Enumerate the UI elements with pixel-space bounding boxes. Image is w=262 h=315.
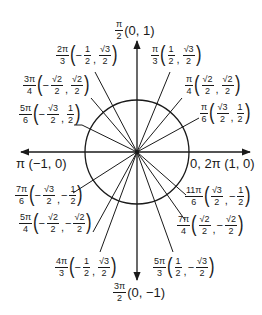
coords-text: (0, −1)	[127, 286, 165, 299]
point-label-pi-6: π 6 ( √3 2 , 1 2 )	[199, 102, 250, 124]
radial-line-pi-4	[137, 98, 182, 152]
x-fraction: √2 2	[202, 75, 214, 96]
angle-fraction: 3π 4	[23, 75, 36, 96]
point-label-7pi-4: 7π 4 ( √2 2 , − √2 2 )	[176, 214, 243, 236]
y-fraction: 1 2	[69, 185, 76, 206]
x-sign: −	[39, 109, 45, 120]
open-paren: (	[194, 73, 199, 95]
y-sign: −	[61, 190, 67, 201]
y-fraction: 1 2	[237, 186, 244, 207]
y-fraction: √2 2	[73, 213, 85, 234]
y-fraction: 1 2	[237, 103, 244, 124]
x-sign: −	[75, 262, 81, 273]
y-fraction: √3 2	[196, 257, 208, 278]
y-fraction: √3 2	[99, 45, 111, 66]
y-sign: −	[229, 191, 235, 202]
x-fraction: √3 2	[47, 104, 59, 125]
open-paren: (	[33, 102, 38, 124]
open-paren: (	[209, 101, 214, 123]
close-paren: )	[86, 211, 91, 233]
x-fraction: 1 2	[168, 45, 175, 66]
comma: ,	[177, 54, 180, 65]
point-label-5pi-3: 5π 3 ( 1 2 , − √3 2 )	[152, 256, 214, 278]
close-paren: )	[111, 255, 116, 277]
x-fraction: √3 2	[43, 185, 55, 206]
x-fraction: 1 2	[175, 257, 182, 278]
close-paren: )	[209, 255, 214, 277]
close-paren: )	[84, 73, 89, 95]
x-fraction: √3 2	[211, 186, 223, 207]
x-fraction: √2 2	[199, 215, 211, 236]
y-fraction: √2 2	[222, 75, 234, 96]
comma: ,	[61, 113, 64, 124]
comma: ,	[92, 266, 95, 277]
close-paren: )	[195, 43, 200, 65]
label-right-zero: 0, 2π (1, 0)	[190, 157, 255, 170]
x-fraction: 1 2	[83, 257, 90, 278]
radial-line-5pi-6	[82, 125, 137, 152]
angle-fraction: 5π 4	[19, 213, 32, 234]
open-paren: (	[203, 184, 208, 206]
y-sign: −	[188, 262, 194, 273]
open-paren: (	[69, 255, 74, 277]
comma: ,	[61, 222, 64, 233]
radial-line-2pi-3	[95, 72, 137, 152]
point-label-7pi-6: 7π 6 ( − √3 2 , − 1 2 )	[14, 184, 83, 206]
coords-text: 0, 2π (1, 0)	[190, 157, 255, 170]
y-sign: −	[217, 220, 223, 231]
angle-fraction: π 4	[185, 75, 193, 96]
x-fraction: √3 2	[217, 103, 229, 124]
close-paren: )	[234, 73, 239, 95]
comma: ,	[213, 224, 216, 235]
open-paren: (	[70, 43, 75, 65]
open-paren: (	[29, 183, 34, 205]
y-fraction: √3 2	[98, 257, 110, 278]
angle-fraction: 7π 4	[177, 215, 190, 236]
x-sign: −	[43, 80, 49, 91]
angle-fraction: π 2	[115, 20, 123, 41]
radial-line-4pi-3	[100, 152, 137, 252]
angle-fraction: π 6	[200, 103, 208, 124]
label-top-pi-over-2: π 2 (0, 1)	[114, 20, 155, 41]
radial-line-7pi-4	[137, 152, 185, 220]
x-sign: −	[39, 218, 45, 229]
point-label-3pi-4: 3π 4 ( − √2 2 , √2 2 )	[22, 74, 89, 96]
open-paren: (	[37, 73, 42, 95]
point-label-11pi-6: 11π 6 ( √3 2 , − 1 2 )	[184, 185, 251, 207]
y-fraction: √2 2	[71, 75, 83, 96]
open-paren: (	[191, 213, 196, 235]
close-paren: )	[75, 102, 80, 124]
comma: ,	[216, 84, 219, 95]
angle-fraction: π 3	[151, 45, 159, 66]
angle-fraction: 2π 3	[56, 45, 69, 66]
point-label-5pi-4: 5π 4 ( − √2 2 , − √2 2 )	[18, 212, 92, 234]
comma: ,	[57, 194, 60, 205]
label-left-pi: π (−1, 0)	[16, 157, 67, 170]
y-fraction: √3 2	[183, 45, 195, 66]
comma: ,	[231, 112, 234, 123]
open-paren: (	[167, 255, 172, 277]
point-label-5pi-6: 5π 6 ( − √3 2 , 1 2 )	[18, 103, 80, 125]
close-paren: )	[77, 183, 82, 205]
comma: ,	[65, 84, 68, 95]
radial-line-5pi-4	[93, 152, 137, 232]
x-sign: −	[76, 50, 82, 61]
radial-line-pi-6	[137, 118, 199, 152]
radial-line-pi-3	[137, 72, 170, 152]
close-paren: )	[245, 184, 250, 206]
x-sign: −	[35, 190, 41, 201]
angle-fraction: 3π 2	[113, 282, 126, 303]
point-label-pi-4: π 4 ( √2 2 , √2 2 )	[184, 74, 240, 96]
comma: ,	[225, 195, 228, 206]
angle-fraction: 11π 6	[185, 186, 203, 207]
close-paren: )	[112, 43, 117, 65]
open-paren: (	[160, 43, 165, 65]
label-bottom-3pi-over-2: 3π 2 (0, −1)	[112, 282, 165, 303]
angle-fraction: 4π 3	[55, 257, 68, 278]
close-paren: )	[238, 213, 243, 235]
point-label-2pi-3: 2π 3 ( − 1 2 , √3 2 )	[55, 44, 117, 66]
open-paren: (	[33, 211, 38, 233]
comma: ,	[184, 266, 187, 277]
origin-dot	[135, 150, 139, 154]
coords-text: (0, 1)	[124, 24, 154, 37]
